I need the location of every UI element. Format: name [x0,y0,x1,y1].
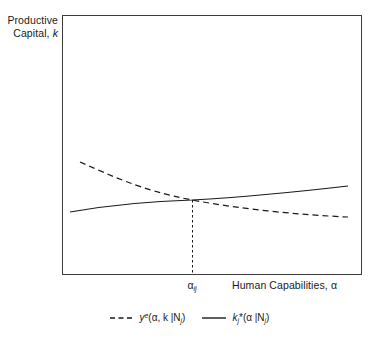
legend-args-close: ) [182,312,185,323]
x-axis-label-symbol: α [331,279,337,291]
legend-args-open: (α, k |N [148,312,180,323]
legend: ye(α, k |Nj) kj*(α |Nj) [0,312,379,324]
legend-label-optimal-capital: kj*(α |Nj) [232,312,269,324]
legend-entry-optimal-capital: kj*(α |Nj) [202,312,269,324]
plot-frame [63,16,362,275]
legend-label-expected-output: ye(α, k |Nj) [140,312,186,324]
legend-swatch-solid-icon [202,314,226,322]
x-axis-label-prefix: Human Capabilities, [232,279,331,291]
x-axis-label: Human Capabilities, α [232,279,337,291]
tick-subscript: ij [193,285,196,293]
legend-args-close-2: ) [266,312,269,323]
curve-optimal-capital-solid [70,186,348,212]
legend-args-open-2: (α |N [243,312,265,323]
plot-area [0,0,379,345]
y-axis-label-symbol: k [53,27,58,39]
y-axis-label-line2: Capital, k [0,27,58,40]
y-axis-label-line1: Productive [7,14,58,26]
curve-expected-output-dashed [80,162,348,217]
legend-entry-expected-output: ye(α, k |Nj) [110,312,186,324]
y-axis-label: Productive Capital, k [0,14,58,39]
y-axis-label-prefix: Capital, [13,27,52,39]
legend-swatch-dashed-icon [110,314,134,322]
x-axis-tick-label-alpha: αij [178,279,206,293]
figure-container: Productive Capital, k Human Capabilities… [0,0,379,345]
